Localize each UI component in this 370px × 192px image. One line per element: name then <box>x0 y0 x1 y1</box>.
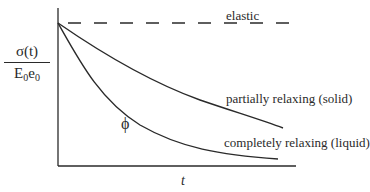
x-axis-label: t <box>181 174 185 188</box>
partially-relaxing-curve <box>58 23 283 128</box>
y-axis-label-denominator: E0e0 <box>4 63 50 81</box>
y-axis-label: σ(t) E0e0 <box>4 44 50 81</box>
partially-relaxing-label: partially relaxing (solid) <box>226 92 352 105</box>
elastic-label: elastic <box>226 9 259 22</box>
phi-symbol: ϕ <box>121 116 129 132</box>
completely-relaxing-label: completely relaxing (liquid) <box>224 136 370 149</box>
y-axis-label-numerator: σ(t) <box>4 44 50 63</box>
